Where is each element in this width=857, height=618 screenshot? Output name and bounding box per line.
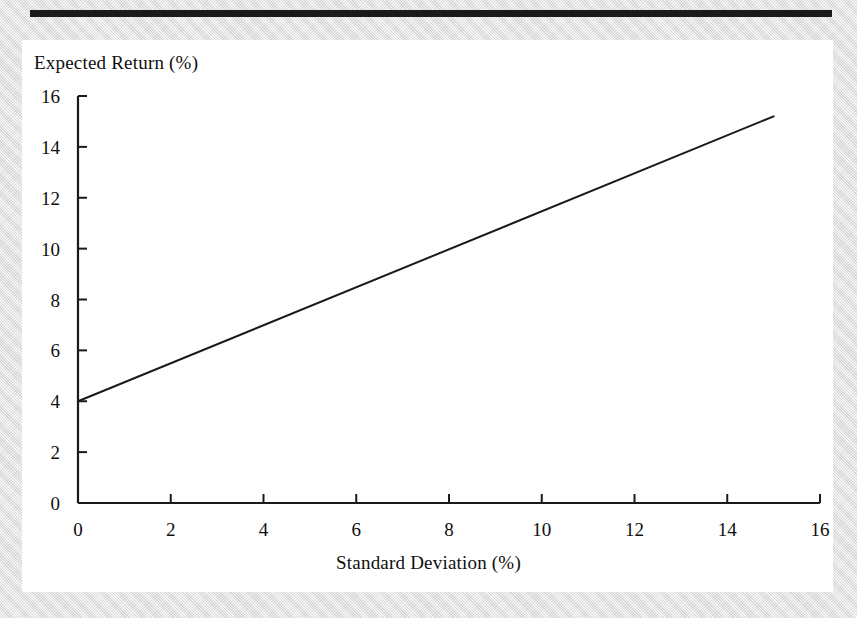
y-tick-label: 14: [41, 137, 61, 158]
tick-marks-group: [78, 96, 820, 503]
x-tick-label: 0: [73, 519, 83, 540]
y-tick-label: 12: [41, 188, 60, 209]
x-tick-label: 14: [718, 519, 738, 540]
y-tick-label: 8: [51, 290, 61, 311]
y-tick-label: 6: [51, 340, 61, 361]
x-tick-label: 12: [625, 519, 644, 540]
y-tick-label: 16: [41, 86, 60, 107]
x-tick-label: 4: [259, 519, 269, 540]
y-tick-label: 0: [51, 493, 61, 514]
y-tick-label: 10: [41, 239, 60, 260]
tick-labels-group: 02468101214160246810121416: [41, 86, 830, 540]
chart-plot-area: 02468101214160246810121416: [0, 0, 857, 618]
x-tick-label: 16: [811, 519, 830, 540]
x-axis-label: Standard Deviation (%): [0, 552, 857, 574]
axes-group: [78, 96, 820, 503]
y-tick-label: 2: [51, 442, 61, 463]
series-line: [78, 116, 774, 401]
x-tick-label: 6: [352, 519, 362, 540]
x-tick-label: 8: [444, 519, 454, 540]
x-tick-label: 10: [532, 519, 551, 540]
y-tick-label: 4: [51, 391, 61, 412]
page-background: Expected Return (%) 02468101214160246810…: [0, 0, 857, 618]
data-series-group: [78, 116, 774, 401]
x-tick-label: 2: [166, 519, 176, 540]
